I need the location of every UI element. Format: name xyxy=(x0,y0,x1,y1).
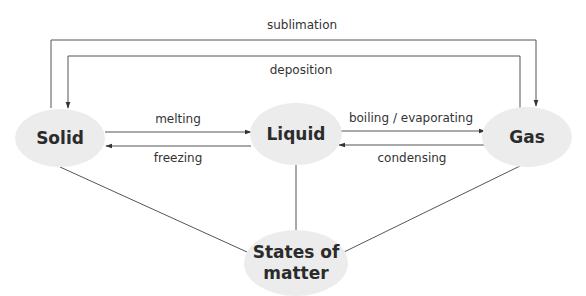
states-of-matter-diagram: Solid Liquid Gas States of matter sublim… xyxy=(0,0,586,296)
connector-gas-center xyxy=(344,166,520,252)
connector-solid-center xyxy=(60,167,247,252)
center-label-line1: States of xyxy=(253,242,340,262)
freezing-label: freezing xyxy=(154,151,203,165)
sublimation-label: sublimation xyxy=(267,18,337,32)
melting-label: melting xyxy=(155,112,201,126)
solid-label: Solid xyxy=(36,128,84,148)
center-label-line2: matter xyxy=(263,263,329,283)
condensing-label: condensing xyxy=(378,151,447,165)
boiling-label: boiling / evaporating xyxy=(349,111,473,125)
liquid-label: Liquid xyxy=(267,124,326,144)
deposition-label: deposition xyxy=(270,63,333,77)
gas-label: Gas xyxy=(509,127,545,147)
